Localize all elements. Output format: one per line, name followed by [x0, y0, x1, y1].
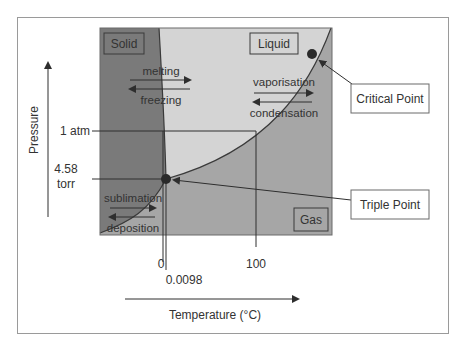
condensation-label: condensation: [250, 107, 318, 119]
y-tick-1atm: 1 atm: [60, 124, 90, 138]
svg-text:Gas: Gas: [300, 213, 322, 227]
critical-point-callout: Critical Point: [351, 84, 429, 113]
svg-text:Solid: Solid: [111, 37, 138, 51]
triple-point-dot: [161, 174, 171, 184]
deposition-label: deposition: [107, 222, 159, 234]
x-tick-0: 0: [158, 257, 165, 271]
y-tick-458: 4.58: [54, 162, 78, 176]
triple-point-callout: Triple Point: [351, 190, 429, 219]
x-tick-100: 100: [246, 257, 266, 271]
critical-point-dot: [307, 49, 317, 59]
svg-text:Triple Point: Triple Point: [360, 198, 421, 212]
temperature-axis-label: Temperature (°C): [169, 308, 261, 322]
pressure-axis-label: Pressure: [27, 106, 41, 154]
freezing-label: freezing: [141, 94, 182, 106]
phase-diagram: Solid Liquid Gas melting freezing vapori…: [0, 0, 464, 351]
sublimation-label: sublimation: [104, 192, 162, 204]
x-tick-00098: 0.0098: [166, 273, 203, 287]
y-tick-torr: torr: [57, 177, 75, 191]
svg-text:Critical Point: Critical Point: [356, 92, 424, 106]
vaporisation-label: vaporisation: [253, 76, 315, 88]
melting-label: melting: [142, 65, 179, 77]
svg-text:Liquid: Liquid: [258, 37, 290, 51]
